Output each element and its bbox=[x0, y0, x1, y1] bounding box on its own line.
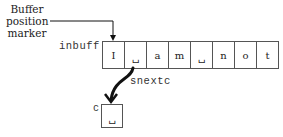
marker-arrow-icon bbox=[50, 21, 116, 41]
diagram-arrows bbox=[0, 0, 283, 137]
snextc-arrow-icon bbox=[105, 68, 133, 102]
